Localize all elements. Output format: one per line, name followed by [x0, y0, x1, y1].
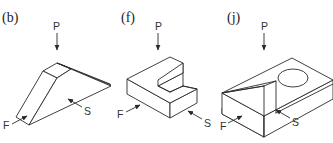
view-label-p-f: P: [155, 21, 162, 32]
view-label-p-b: P: [53, 21, 60, 32]
view-label-f-b: F: [3, 120, 9, 131]
notched-block-drawing: [127, 57, 197, 118]
diagram-canvas: [0, 0, 333, 143]
view-label-f-j: F: [220, 121, 226, 132]
view-label-f-f: F: [117, 109, 123, 120]
view-label-p-j: P: [261, 21, 268, 32]
panel-label-j: (j): [227, 11, 240, 25]
view-label-s-j: S: [292, 117, 299, 128]
panel-label-f: (f): [121, 11, 135, 25]
chamfered-block-drawing: [222, 58, 333, 137]
cylindrical-hole: [278, 69, 308, 87]
panel-label-b: (b): [2, 11, 18, 25]
view-label-s-f: S: [204, 118, 211, 129]
side-view-arrow-f: [188, 111, 202, 119]
front-view-arrow-f: [126, 105, 140, 112]
view-label-s-b: S: [84, 106, 91, 117]
wedge-drawing: [16, 63, 111, 125]
